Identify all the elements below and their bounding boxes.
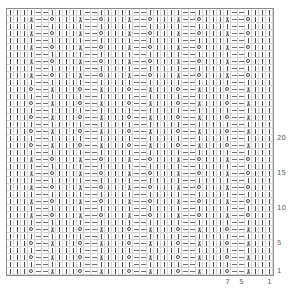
stitch-cell [231, 65, 238, 72]
stitch-cell [49, 114, 56, 121]
stitch-cell [175, 198, 182, 205]
knit-stitch-icon [73, 17, 74, 22]
stitch-cell [203, 268, 210, 275]
stitch-cell [56, 184, 63, 191]
decrease-icon [50, 241, 55, 246]
knit-stitch-icon [129, 234, 130, 239]
knit-stitch-icon [206, 87, 207, 92]
stitch-cell [154, 72, 161, 79]
knit-stitch-icon [52, 80, 53, 85]
purl-dash-icon [134, 250, 139, 251]
stitch-cell [70, 212, 77, 219]
purl-dash-icon [134, 117, 139, 118]
stitch-cell [98, 163, 105, 170]
knit-stitch-icon [206, 185, 207, 190]
stitch-cell [238, 226, 245, 233]
stitch-cell [70, 142, 77, 149]
knit-stitch-icon [17, 59, 18, 64]
stitch-cell [266, 79, 273, 86]
stitch-cell [210, 268, 217, 275]
purl-dash-icon [232, 54, 237, 55]
knit-stitch-icon [17, 73, 18, 78]
stitch-cell [259, 163, 266, 170]
stitch-cell [189, 205, 196, 212]
decrease-icon [176, 73, 181, 78]
knit-stitch-icon [108, 129, 109, 134]
knit-stitch-icon [59, 262, 60, 267]
stitch-cell [259, 268, 266, 275]
purl-dash-icon [92, 12, 97, 13]
stitch-cell [28, 44, 35, 51]
stitch-cell [56, 93, 63, 100]
knit-stitch-icon [17, 213, 18, 218]
purl-dash-icon [183, 187, 188, 188]
purl-dash-icon [85, 26, 90, 27]
knit-stitch-icon [129, 192, 130, 197]
purl-dash-icon [43, 103, 48, 104]
knit-stitch-icon [17, 199, 18, 204]
stitch-cell [154, 86, 161, 93]
knit-stitch-icon [108, 115, 109, 120]
stitch-cell [238, 58, 245, 65]
stitch-cell [126, 254, 133, 261]
stitch-cell [14, 205, 21, 212]
stitch-cell [231, 233, 238, 240]
knit-stitch-icon [262, 241, 263, 246]
purl-dash-icon [36, 194, 41, 195]
stitch-cell [63, 156, 70, 163]
purl-dash-icon [190, 82, 195, 83]
purl-dash-icon [141, 250, 146, 251]
knit-stitch-icon [178, 248, 179, 253]
stitch-cell [56, 149, 63, 156]
knit-stitch-icon [269, 241, 270, 246]
knit-stitch-icon [115, 80, 116, 85]
stitch-cell [126, 226, 133, 233]
knit-stitch-icon [73, 59, 74, 64]
stitch-cell [119, 212, 126, 219]
purl-dash-icon [134, 89, 139, 90]
stitch-cell [42, 100, 49, 107]
stitch-cell [77, 233, 84, 240]
knit-stitch-icon [129, 122, 130, 127]
purl-dash-icon [183, 194, 188, 195]
decrease-icon [78, 185, 83, 190]
yarn-over-icon [148, 31, 152, 35]
stitch-cell [49, 9, 56, 16]
row-number-label: 10 [277, 205, 286, 212]
knit-stitch-icon [206, 262, 207, 267]
knit-stitch-icon [115, 143, 116, 148]
knit-stitch-icon [17, 150, 18, 155]
knit-stitch-icon [157, 38, 158, 43]
knit-stitch-icon [24, 45, 25, 50]
knit-stitch-icon [220, 94, 221, 99]
stitch-cell [119, 16, 126, 23]
knit-stitch-icon [164, 10, 165, 15]
knit-stitch-icon [122, 234, 123, 239]
stitch-cell [14, 247, 21, 254]
stitch-cell [7, 86, 14, 93]
purl-dash-icon [190, 117, 195, 118]
knit-stitch-icon [213, 129, 214, 134]
yarn-over-icon [176, 241, 180, 245]
knit-stitch-icon [66, 241, 67, 246]
knit-stitch-icon [199, 234, 200, 239]
knit-stitch-icon [10, 45, 11, 50]
knit-stitch-icon [66, 80, 67, 85]
decrease-icon [197, 241, 202, 246]
stitch-cell [98, 198, 105, 205]
knit-stitch-icon [129, 94, 130, 99]
stitch-cell [119, 205, 126, 212]
stitch-cell [126, 30, 133, 37]
purl-dash-icon [232, 40, 237, 41]
stitch-cell [77, 212, 84, 219]
stitch-cell [35, 58, 42, 65]
knit-stitch-icon [122, 80, 123, 85]
knit-stitch-icon [262, 136, 263, 141]
stitch-cell [49, 121, 56, 128]
knit-stitch-icon [227, 136, 228, 141]
stitch-cell [77, 44, 84, 51]
purl-dash-icon [239, 180, 244, 181]
stitch-cell [119, 240, 126, 247]
stitch-cell [189, 114, 196, 121]
stitch-cell [70, 240, 77, 247]
